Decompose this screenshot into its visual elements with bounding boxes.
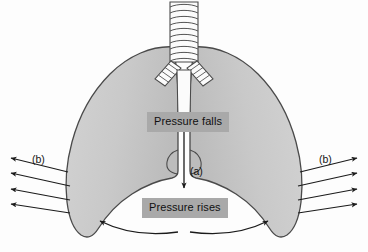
pressure-falls-label: Pressure falls	[147, 112, 229, 132]
trachea	[170, 2, 198, 62]
callout-b-left-label: (b)	[32, 154, 45, 165]
diaphragm-arrow-right	[190, 221, 268, 234]
breathing-mechanism-diagram: Pressure falls Pressure rises (a) (b) (b…	[0, 0, 368, 252]
rib-expansion-arrows-right	[298, 158, 357, 213]
pressure-rises-label: Pressure rises	[142, 198, 228, 218]
central-airway	[177, 70, 191, 118]
callout-b-right-label: (b)	[319, 154, 332, 165]
callout-a-label: (a)	[190, 166, 203, 177]
rib-expansion-arrows-left	[11, 158, 70, 213]
diaphragm-arrow-left	[100, 221, 178, 234]
